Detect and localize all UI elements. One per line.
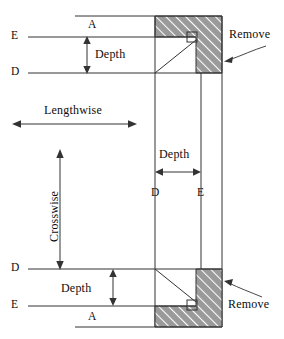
label-remove-top: Remove xyxy=(229,28,270,40)
label-bottom-a: A xyxy=(88,311,97,323)
diagram-svg xyxy=(0,0,284,339)
chamfer-diagonal-top xyxy=(155,40,196,73)
label-bottom-e: E xyxy=(11,299,18,311)
label-top-d: D xyxy=(11,66,20,78)
diagram-canvas: A E D Depth Lengthwise Crosswise Depth D… xyxy=(0,0,284,339)
callout-arrow-remove-bottom xyxy=(224,279,262,297)
callout-arrow-remove-top xyxy=(224,46,266,63)
label-lengthwise: Lengthwise xyxy=(44,104,102,116)
dimension-arrow-top-depth xyxy=(83,36,90,74)
label-top-a: A xyxy=(88,19,97,31)
dimension-arrow-lengthwise xyxy=(12,120,137,127)
label-bottom-d: D xyxy=(11,262,20,274)
label-top-e: E xyxy=(11,30,18,42)
dimension-arrow-middle-depth xyxy=(155,168,201,175)
chamfer-diagonal-bottom xyxy=(155,269,196,302)
dimension-arrow-bottom-depth xyxy=(109,269,116,306)
label-middle-depth: Depth xyxy=(159,148,189,160)
label-bottom-depth: Depth xyxy=(61,282,91,294)
label-middle-d: D xyxy=(151,187,160,199)
label-middle-e: E xyxy=(197,187,204,199)
label-remove-bottom: Remove xyxy=(228,298,269,310)
label-top-depth: Depth xyxy=(95,48,125,60)
label-crosswise: Crosswise xyxy=(48,191,60,242)
